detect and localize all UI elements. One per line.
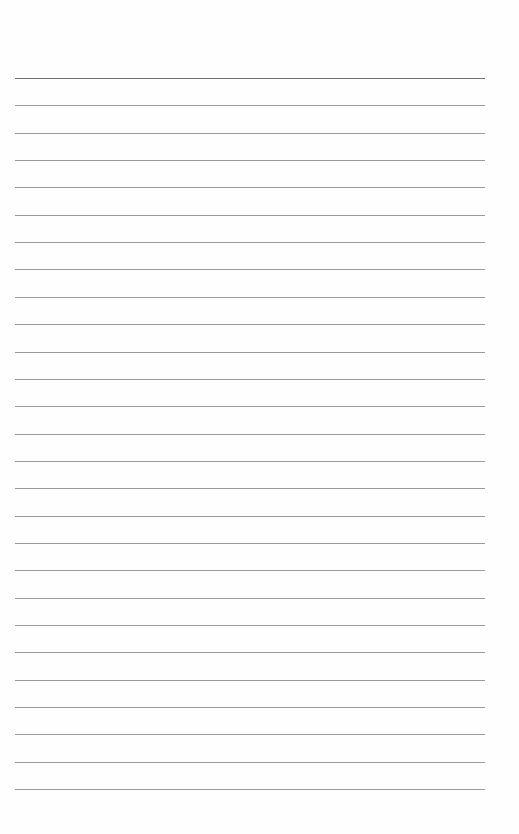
rule-line bbox=[15, 269, 485, 270]
rule-line bbox=[15, 543, 485, 544]
rule-line bbox=[15, 406, 485, 407]
rule-line bbox=[15, 652, 485, 653]
rule-line bbox=[15, 187, 485, 188]
rule-line bbox=[15, 215, 485, 216]
rule-line bbox=[15, 297, 485, 298]
rule-line bbox=[15, 707, 485, 708]
header-rule-line bbox=[15, 78, 485, 79]
rule-line bbox=[15, 379, 485, 380]
rule-line bbox=[15, 762, 485, 763]
rule-line bbox=[15, 434, 485, 435]
rule-line bbox=[15, 461, 485, 462]
rule-line bbox=[15, 105, 485, 106]
rule-line bbox=[15, 625, 485, 626]
rule-line bbox=[15, 570, 485, 571]
rule-line bbox=[15, 160, 485, 161]
rule-line bbox=[15, 680, 485, 681]
rule-line bbox=[15, 324, 485, 325]
rule-line bbox=[15, 133, 485, 134]
rule-line bbox=[15, 488, 485, 489]
rule-line bbox=[15, 734, 485, 735]
rule-line bbox=[15, 598, 485, 599]
rule-line bbox=[15, 516, 485, 517]
lined-paper-page bbox=[0, 0, 519, 834]
rule-line bbox=[15, 352, 485, 353]
rule-line bbox=[15, 242, 485, 243]
rule-line bbox=[15, 789, 485, 790]
